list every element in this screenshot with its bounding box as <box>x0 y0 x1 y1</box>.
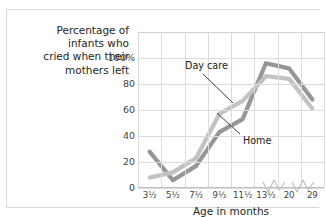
axis-break-marks <box>7 10 326 215</box>
chart-frame: Percentage of infants who cried when the… <box>6 9 319 208</box>
